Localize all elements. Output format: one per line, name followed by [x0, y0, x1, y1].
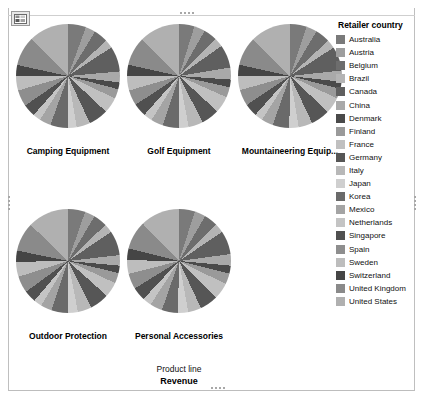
pie-chart[interactable] [127, 24, 231, 128]
legend-title: Retailer country [338, 20, 410, 30]
legend-item[interactable]: Korea [336, 190, 410, 203]
legend: Retailer country AustraliaAustriaBelgium… [336, 20, 410, 308]
pie-chart[interactable] [16, 209, 120, 313]
legend-item-label: Belgium [349, 61, 378, 70]
pie-chart-panel[interactable]: Mountaineering Equip... [234, 20, 346, 202]
legend-item[interactable]: Switzerland [336, 269, 410, 282]
pie-chart-panel[interactable]: Personal Accessories [123, 205, 235, 387]
legend-item[interactable]: Brazil [336, 72, 410, 85]
legend-color-swatch [336, 245, 345, 254]
pie-chart-label: Outdoor Protection [12, 331, 124, 341]
legend-item-label: Sweden [349, 258, 378, 267]
legend-color-swatch [336, 153, 345, 162]
axis-captions: Product line Revenue [123, 363, 235, 388]
legend-item-label: Mexico [349, 205, 374, 214]
pie-chart-label: Camping Equipment [12, 146, 124, 156]
resize-grip-right[interactable] [412, 196, 417, 210]
legend-item-label: France [349, 140, 374, 149]
legend-item-label: China [349, 101, 370, 110]
legend-item[interactable]: Finland [336, 125, 410, 138]
legend-color-swatch [336, 166, 345, 175]
pie-chart-label: Mountaineering Equip... [234, 146, 346, 156]
legend-color-swatch [336, 231, 345, 240]
legend-color-swatch [336, 192, 345, 201]
legend-item-label: United Kingdom [349, 284, 406, 293]
legend-color-swatch [336, 61, 345, 70]
legend-item[interactable]: Canada [336, 85, 410, 98]
legend-item[interactable]: Australia [336, 33, 410, 46]
legend-item-label: Australia [349, 35, 380, 44]
legend-item[interactable]: Belgium [336, 59, 410, 72]
legend-item-label: Germany [349, 153, 382, 162]
legend-item-label: Austria [349, 48, 374, 57]
legend-item[interactable]: Netherlands [336, 216, 410, 229]
legend-item[interactable]: Mexico [336, 203, 410, 216]
legend-item[interactable]: Spain [336, 243, 410, 256]
x-axis-label: Product line [123, 363, 235, 375]
legend-item[interactable]: Germany [336, 151, 410, 164]
pie-chart-label: Golf Equipment [123, 146, 235, 156]
legend-item-label: Brazil [349, 74, 369, 83]
legend-item[interactable]: Singapore [336, 229, 410, 242]
legend-item-label: Canada [349, 87, 377, 96]
legend-color-swatch [336, 74, 345, 83]
legend-color-swatch [336, 87, 345, 96]
legend-item-label: United States [349, 297, 397, 306]
pie-chart-panel[interactable]: Golf Equipment [123, 20, 235, 202]
legend-item[interactable]: France [336, 138, 410, 151]
pie-chart[interactable] [238, 24, 342, 128]
legend-color-swatch [336, 205, 345, 214]
legend-item[interactable]: Italy [336, 164, 410, 177]
legend-color-swatch [336, 127, 345, 136]
legend-color-swatch [336, 258, 345, 267]
legend-color-swatch [336, 140, 345, 149]
legend-color-swatch [336, 48, 345, 57]
legend-item-label: Japan [349, 179, 371, 188]
pie-chart-matrix: Camping Equipment Golf Equipment Mountai… [12, 20, 334, 388]
legend-item[interactable]: United States [336, 295, 410, 308]
pie-chart[interactable] [127, 209, 231, 313]
legend-item[interactable]: China [336, 98, 410, 111]
resize-grip-top[interactable] [180, 10, 194, 15]
legend-color-swatch [336, 284, 345, 293]
legend-item[interactable]: Denmark [336, 112, 410, 125]
legend-color-swatch [336, 114, 345, 123]
legend-color-swatch [336, 297, 345, 306]
legend-item-label: Finland [349, 127, 375, 136]
pie-chart[interactable] [16, 24, 120, 128]
legend-item[interactable]: Austria [336, 46, 410, 59]
report-canvas: Camping Equipment Golf Equipment Mountai… [0, 0, 435, 414]
visualization-border-top [8, 15, 415, 16]
legend-item-label: Denmark [349, 114, 381, 123]
pie-chart-panel[interactable]: Camping Equipment [12, 20, 124, 202]
legend-item-label: Singapore [349, 231, 385, 240]
pie-chart-row: Outdoor Protection Personal Accessories [12, 205, 334, 387]
pie-chart-label: Personal Accessories [123, 331, 235, 341]
visualization-border-bottom [8, 390, 415, 391]
legend-item-label: Korea [349, 192, 370, 201]
legend-color-swatch [336, 101, 345, 110]
legend-item-label: Switzerland [349, 271, 390, 280]
y-axis-label: Revenue [123, 375, 235, 388]
legend-item-label: Netherlands [349, 218, 392, 227]
resize-grip-left[interactable] [6, 196, 11, 210]
legend-item-label: Italy [349, 166, 364, 175]
legend-item-label: Spain [349, 245, 369, 254]
legend-item[interactable]: Japan [336, 177, 410, 190]
legend-color-swatch [336, 35, 345, 44]
legend-item[interactable]: United Kingdom [336, 282, 410, 295]
pie-chart-panel[interactable]: Outdoor Protection [12, 205, 124, 387]
legend-color-swatch [336, 218, 345, 227]
legend-item-list: AustraliaAustriaBelgiumBrazilCanadaChina… [336, 33, 410, 308]
legend-color-swatch [336, 271, 345, 280]
legend-color-swatch [336, 179, 345, 188]
pie-chart-row: Camping Equipment Golf Equipment Mountai… [12, 20, 334, 202]
legend-item[interactable]: Sweden [336, 256, 410, 269]
